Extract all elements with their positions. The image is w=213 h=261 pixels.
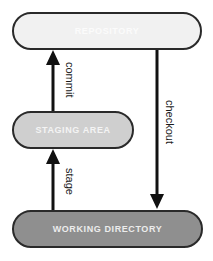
checkout-arrow [150,50,164,209]
checkout-edge-label: checkout [164,100,176,144]
staging-area-node: STAGING AREA [12,111,134,149]
stage-arrow [46,149,60,210]
working-directory-node: WORKING DIRECTORY [12,210,203,248]
staging-area-label: STAGING AREA [35,125,110,135]
commit-edge-label: commit [64,62,76,97]
stage-edge-label: stage [64,168,76,195]
repository-node: REPOSITORY [12,12,202,50]
working-directory-label: WORKING DIRECTORY [53,224,163,234]
repository-label: REPOSITORY [75,26,140,36]
commit-arrow [46,50,60,111]
